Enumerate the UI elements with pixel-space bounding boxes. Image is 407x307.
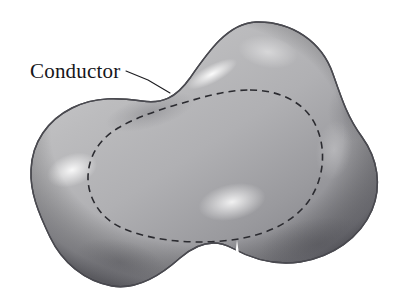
- figure-root: Conductor: [0, 0, 407, 307]
- conductor-figure-svg: Conductor: [0, 0, 407, 307]
- conductor-label: Conductor: [30, 59, 120, 83]
- conductor-leader-line: [126, 71, 170, 93]
